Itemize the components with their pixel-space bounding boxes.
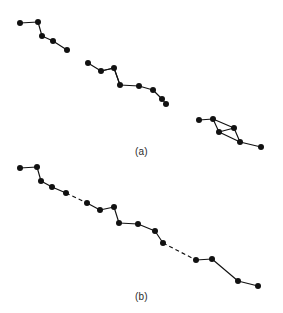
data-point-cluster-2-2 xyxy=(111,65,117,71)
data-point-cluster-2-4 xyxy=(136,83,142,89)
panel-b xyxy=(0,155,283,313)
data-point-cluster-1-4 xyxy=(64,47,70,53)
data-point-chain-10 xyxy=(152,228,158,234)
data-point-cluster-2-3 xyxy=(117,82,123,88)
data-point-cluster-2-1 xyxy=(98,68,104,74)
data-point-cluster-3-2 xyxy=(216,129,222,135)
data-point-chain-9 xyxy=(135,221,141,227)
data-point-cluster-2-0 xyxy=(85,60,91,66)
panel-a-plot xyxy=(0,0,283,165)
data-point-cluster-2-5 xyxy=(150,87,156,93)
data-point-chain-6 xyxy=(97,207,103,213)
edge-chain-13-14 xyxy=(212,259,238,281)
edge-chain-14-15 xyxy=(238,281,258,286)
data-point-cluster-3-0 xyxy=(196,117,202,123)
data-point-chain-1 xyxy=(34,164,40,170)
data-point-chain-2 xyxy=(38,178,44,184)
edge-chain-4-5 xyxy=(66,193,87,203)
data-point-chain-14 xyxy=(235,278,241,284)
node-group-b xyxy=(17,164,261,289)
data-point-chain-11 xyxy=(160,240,166,246)
data-point-cluster-1-3 xyxy=(50,38,56,44)
data-point-cluster-1-1 xyxy=(35,19,41,25)
data-point-chain-7 xyxy=(111,204,117,210)
data-point-cluster-3-1 xyxy=(210,116,216,122)
data-point-chain-0 xyxy=(17,165,23,171)
panel-b-plot xyxy=(0,155,283,313)
data-point-chain-15 xyxy=(255,283,261,289)
panel-a xyxy=(0,0,283,165)
data-point-cluster-3-3 xyxy=(231,125,237,131)
data-point-chain-12 xyxy=(193,257,199,263)
data-point-cluster-2-7 xyxy=(163,101,169,107)
data-point-chain-13 xyxy=(209,256,215,262)
data-point-cluster-1-2 xyxy=(39,33,45,39)
data-point-cluster-2-6 xyxy=(159,96,165,102)
data-point-chain-5 xyxy=(84,200,90,206)
edge-chain-11-12 xyxy=(163,243,196,260)
data-point-chain-8 xyxy=(116,220,122,226)
figure-root: (a) (b) xyxy=(0,0,283,313)
data-point-chain-4 xyxy=(63,190,69,196)
data-point-cluster-1-0 xyxy=(17,20,23,26)
data-point-cluster-3-4 xyxy=(237,139,243,145)
data-point-chain-3 xyxy=(49,184,55,190)
panel-b-caption: (b) xyxy=(0,291,283,302)
